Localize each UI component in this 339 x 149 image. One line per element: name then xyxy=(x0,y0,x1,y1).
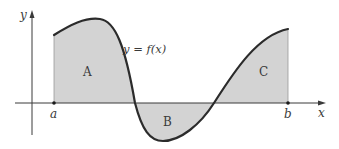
region-a-label: A xyxy=(82,65,92,79)
region-b-label: B xyxy=(163,115,172,129)
integral-diagram: y x a b y = f(x) A B C xyxy=(0,0,339,149)
diagram-canvas: y x a b y = f(x) A B C xyxy=(0,0,339,149)
region-c-label: C xyxy=(259,65,268,79)
y-axis-label: y xyxy=(19,8,27,22)
point-a-dot xyxy=(52,101,56,105)
upper-bound-label: b xyxy=(284,107,292,121)
x-axis-arrow-icon xyxy=(318,101,326,106)
region-a-shading xyxy=(54,19,135,103)
point-b-dot xyxy=(286,101,290,105)
x-axis-label: x xyxy=(318,106,325,120)
region-b-shading xyxy=(135,103,214,141)
lower-bound-label: a xyxy=(50,107,57,121)
region-c-shading xyxy=(214,29,288,103)
y-axis-arrow-icon xyxy=(30,10,35,18)
function-label: y = f(x) xyxy=(122,42,166,56)
